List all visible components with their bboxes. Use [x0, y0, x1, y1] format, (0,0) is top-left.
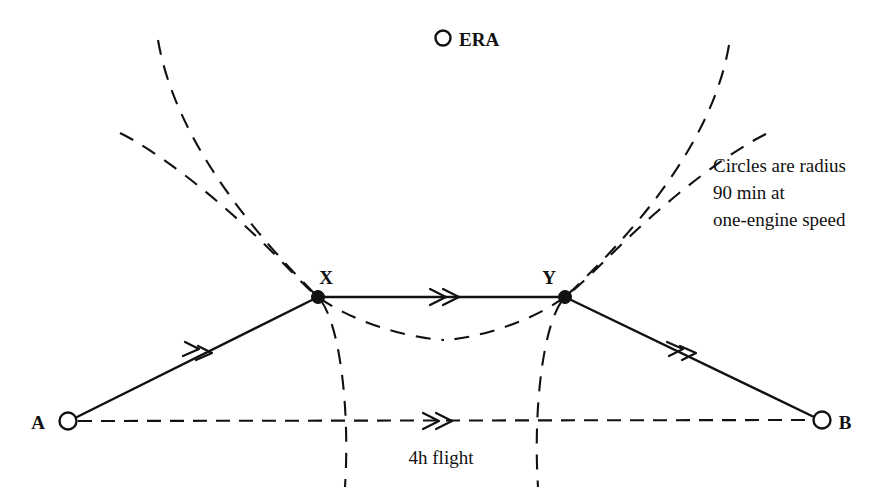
- range-note-line-3: one-engine speed: [713, 209, 846, 230]
- range-arc-left-flat: [120, 133, 444, 340]
- node-label-b: B: [839, 412, 852, 433]
- node-marker-y[interactable]: [559, 291, 572, 304]
- direct-route-label: 4h flight: [409, 447, 475, 468]
- era-marker-icon: [436, 31, 451, 46]
- node-label-x: X: [319, 267, 333, 288]
- range-note: Circles are radius 90 min at one-engine …: [713, 155, 846, 230]
- node-marker-x[interactable]: [312, 291, 325, 304]
- node-marker-a[interactable]: [60, 413, 77, 430]
- range-note-line-1: Circles are radius: [713, 155, 846, 176]
- etops-range-diagram: A B X Y 4h flight ERA Circles are radius…: [0, 0, 888, 495]
- node-label-y: Y: [542, 267, 556, 288]
- leg-line-y-b: [567, 298, 814, 417]
- node-marker-b[interactable]: [814, 412, 831, 429]
- era-legend-label: ERA: [459, 29, 499, 50]
- range-note-line-2: 90 min at: [713, 182, 785, 203]
- node-label-a: A: [31, 412, 45, 433]
- direct-route-line: [78, 420, 812, 421]
- range-circle-left: [120, 40, 444, 487]
- diagram-canvas: A B X Y 4h flight ERA Circles are radius…: [0, 0, 888, 495]
- leg-line-a-x: [77, 298, 316, 417]
